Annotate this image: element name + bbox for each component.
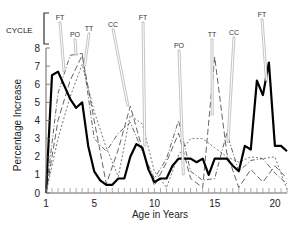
- plot-area: [46, 53, 287, 193]
- y-tick-label: 6: [34, 79, 40, 90]
- x-tick-label: 1: [43, 198, 49, 209]
- x-axis-title: Age in Years: [132, 209, 188, 220]
- series-line: [46, 63, 287, 194]
- y-tick-label: 3: [34, 133, 40, 144]
- x-tick-label: 10: [149, 198, 161, 209]
- annotation-label: CC: [108, 21, 118, 28]
- y-tick-label: 2: [34, 151, 40, 162]
- y-tick-label: 8: [34, 43, 40, 54]
- annotation-label: FT: [139, 14, 148, 21]
- y-axis-title: Percentage Increase: [12, 78, 23, 171]
- annotation-label: FT: [56, 14, 65, 21]
- y-tick-label: 4: [34, 115, 40, 126]
- annotation-pointer: [227, 37, 235, 142]
- annotation-pointer: [112, 29, 129, 106]
- series-line: [46, 53, 287, 193]
- x-tick-label: 5: [91, 198, 97, 209]
- cycle-label: CYCLE: [6, 26, 33, 35]
- annotation-pointer: [142, 22, 146, 146]
- annotation-label: PO: [174, 42, 185, 49]
- y-tick-label: 5: [34, 97, 40, 108]
- annotation-pointer: [84, 33, 90, 66]
- annotation-pointer: [178, 50, 184, 175]
- y-tick-label: 0: [34, 188, 40, 199]
- x-tick-label: 15: [209, 198, 221, 209]
- annotation-pointer: [261, 19, 268, 81]
- x-tick-label: 20: [269, 198, 281, 209]
- annotation-label: CC: [229, 29, 239, 36]
- annotation-pointer: [211, 39, 213, 115]
- cycle-bracket: [44, 13, 49, 44]
- annotation-label: PO: [70, 31, 81, 38]
- series-line: [46, 55, 287, 193]
- annotation-label: TT: [85, 25, 94, 32]
- annotation-label: FT: [258, 11, 267, 18]
- annotation-pointer: [59, 22, 65, 72]
- line-chart: 15101520012345678 FTPOTTCCFTPOTTCCFT Age…: [0, 0, 300, 225]
- annotation-pointer: [74, 39, 77, 55]
- y-tick-label: 7: [34, 61, 40, 72]
- series-line: [46, 64, 287, 193]
- y-tick-label: 1: [34, 169, 40, 180]
- annotation-label: TT: [208, 31, 217, 38]
